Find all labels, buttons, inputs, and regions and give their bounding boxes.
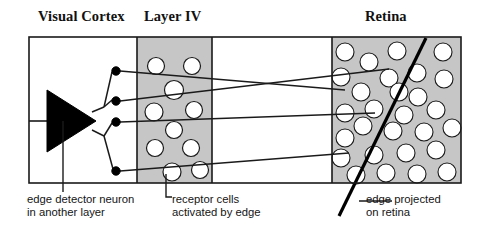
retina-cell: [408, 165, 426, 183]
retina-cell: [443, 119, 461, 137]
retina-cell: [332, 68, 350, 86]
layer-iv-cell-activated: [145, 103, 163, 121]
visual-cortex-panel: [29, 37, 137, 183]
retina-cell: [427, 101, 445, 119]
retina-cell: [415, 123, 433, 141]
retina-cell: [409, 88, 427, 106]
retina-cell: [438, 163, 456, 181]
caption-line-1: edge projected: [366, 193, 441, 206]
retina-cell: [434, 43, 452, 61]
heading-visual-cortex: Visual Cortex: [38, 8, 125, 25]
caption-line-2: activated by edge: [172, 206, 261, 219]
caption-line-2: in another layer: [27, 206, 134, 219]
retina-cell: [352, 83, 370, 101]
diagram-canvas: Visual Cortex Layer IV Retina edge detec…: [0, 0, 480, 241]
layer-iv-cell: [186, 102, 203, 119]
caption-edge-detector-neuron: edge detector neuron in another layer: [27, 193, 134, 219]
relay-panel: [212, 37, 332, 183]
retina-cell: [427, 141, 445, 159]
retina-cell: [354, 117, 372, 135]
caption-receptor-cells: receptor cells activated by edge: [172, 193, 261, 219]
layer-iv-cell: [148, 58, 165, 75]
layer-iv-cell: [147, 140, 164, 157]
heading-layer-iv: Layer IV: [144, 8, 201, 25]
synapse-terminal: [112, 67, 120, 75]
retina-cell: [435, 70, 453, 88]
retina-cell: [360, 53, 378, 71]
synapse-terminal: [112, 118, 120, 126]
layer-iv-cell: [183, 140, 200, 157]
retina-cell: [377, 164, 395, 182]
layer-iv-cell-activated: [166, 122, 183, 139]
retina-cell: [332, 149, 350, 167]
retina-cell: [336, 43, 354, 61]
retina-cell: [384, 122, 402, 140]
retina-cell: [336, 129, 354, 147]
heading-retina: Retina: [365, 8, 407, 25]
caption-edge-projected: edge projected on retina: [366, 193, 441, 219]
caption-line-1: edge detector neuron: [27, 193, 134, 206]
retina-cell: [397, 144, 415, 162]
retina-cell: [365, 100, 383, 118]
layer-iv-cell-activated: [165, 81, 184, 100]
retina-cell: [395, 106, 413, 124]
retina-cell: [388, 42, 406, 60]
synapse-terminal: [112, 167, 120, 175]
layer-iv-cell: [184, 58, 201, 75]
caption-line-1: receptor cells: [172, 193, 261, 206]
synapse-terminal: [112, 97, 120, 105]
caption-line-2: on retina: [366, 206, 441, 219]
retina-cell: [336, 104, 354, 122]
